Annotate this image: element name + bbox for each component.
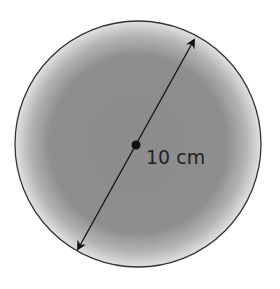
diameter-label: 10 cm bbox=[146, 146, 205, 168]
center-point bbox=[132, 141, 141, 150]
circle-diagram: 10 cm bbox=[0, 0, 280, 289]
